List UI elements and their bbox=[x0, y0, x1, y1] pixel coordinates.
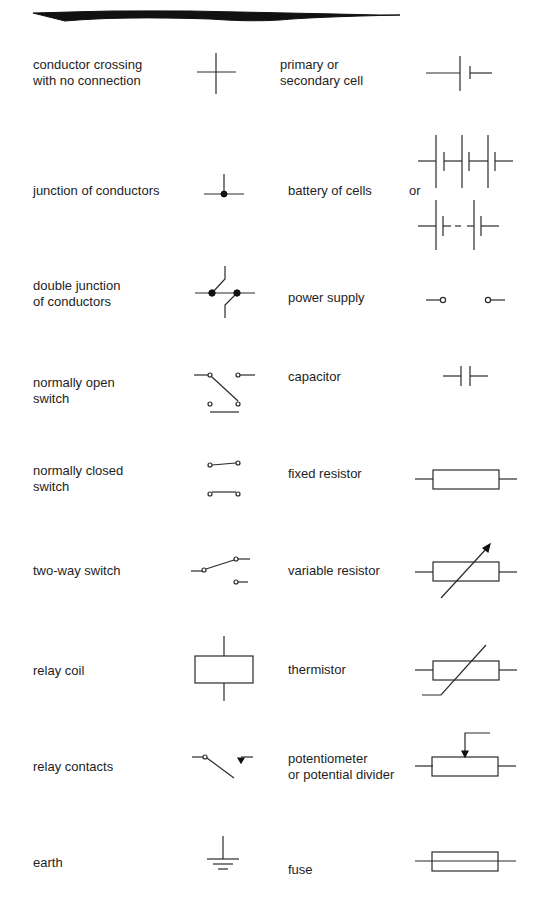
double-junction-icon bbox=[195, 266, 255, 318]
power-supply-icon bbox=[426, 297, 505, 302]
conductor-crossing-icon bbox=[197, 53, 236, 94]
two-way-switch-icon bbox=[191, 557, 250, 584]
cell-icon bbox=[426, 56, 492, 91]
normally-open-switch-icon bbox=[194, 373, 255, 412]
circuit-symbols bbox=[0, 0, 540, 917]
battery-alt-icon bbox=[418, 200, 499, 250]
relay-contacts-icon bbox=[192, 755, 253, 778]
thermistor-icon bbox=[415, 645, 517, 695]
normally-closed-switch-icon bbox=[208, 461, 240, 496]
junction-icon bbox=[204, 174, 244, 197]
relay-coil-icon bbox=[195, 636, 253, 701]
fixed-resistor-icon bbox=[415, 470, 517, 489]
battery-icon bbox=[418, 135, 513, 188]
fuse-icon bbox=[415, 852, 516, 871]
capacitor-icon bbox=[443, 366, 488, 386]
potentiometer-icon bbox=[415, 733, 516, 776]
variable-resistor-icon bbox=[415, 544, 517, 598]
earth-icon bbox=[207, 836, 239, 869]
